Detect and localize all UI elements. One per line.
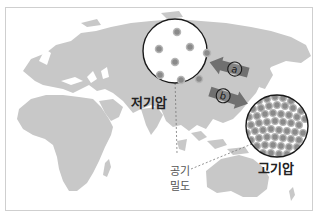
low-pressure-label: 저기압 [131,92,167,111]
high-pressure-circle [244,94,309,158]
high-pressure-label: 고기압 [258,158,294,177]
air-density-label: 공기 밀도 [170,164,190,194]
